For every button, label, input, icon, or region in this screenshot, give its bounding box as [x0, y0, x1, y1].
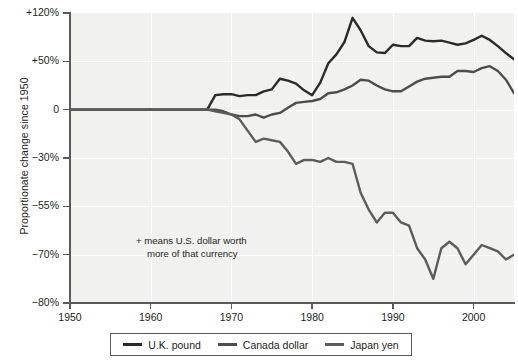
legend-entry[interactable]: Japan yen	[325, 339, 398, 351]
legend-swatch-icon	[325, 343, 344, 346]
x-tick-label: 1980	[282, 311, 342, 323]
legend-swatch-icon	[218, 343, 237, 346]
legend-swatch-icon	[123, 343, 142, 346]
y-tick-label: +120%	[0, 6, 59, 18]
y-tick-label: −30%	[0, 151, 59, 163]
y-tick-mark	[63, 61, 70, 62]
y-tick-label: 0	[0, 103, 59, 115]
x-tick-label: 1970	[201, 311, 261, 323]
y-tick-label: −80%	[0, 296, 59, 308]
x-tick-label: 1990	[363, 311, 423, 323]
x-tick-label: 2000	[444, 311, 504, 323]
series-line-u-k-pound	[70, 18, 514, 110]
chart-annotation: + means U.S. dollar worth more of that c…	[136, 234, 247, 260]
y-tick-mark	[63, 157, 70, 158]
annotation-line-1: + means U.S. dollar worth	[136, 235, 247, 246]
x-tick-label: 1960	[121, 311, 181, 323]
currency-change-line-chart: Proportionate change since 1950 +120%+50…	[0, 0, 518, 364]
x-tick-mark	[69, 303, 70, 309]
legend-label: Canada dollar	[243, 339, 308, 351]
x-tick-mark	[150, 303, 151, 309]
x-tick-mark	[473, 303, 474, 309]
x-tick-mark	[392, 303, 393, 309]
legend-label: Japan yen	[350, 339, 398, 351]
y-tick-mark	[63, 109, 70, 110]
y-tick-mark	[63, 254, 70, 255]
x-tick-label: 1950	[40, 311, 100, 323]
y-tick-mark	[63, 12, 70, 13]
annotation-line-2: more of that currency	[136, 247, 247, 260]
y-tick-label: −55%	[0, 199, 59, 211]
x-tick-mark	[231, 303, 232, 309]
chart-legend: U.K. poundCanada dollarJapan yen	[110, 333, 412, 356]
x-tick-mark	[311, 303, 312, 309]
y-tick-label: −70%	[0, 248, 59, 260]
y-tick-mark	[63, 206, 70, 207]
legend-label: U.K. pound	[148, 339, 201, 351]
legend-entry[interactable]: Canada dollar	[218, 339, 308, 351]
y-tick-label: +50%	[0, 54, 59, 66]
legend-entry[interactable]: U.K. pound	[123, 339, 201, 351]
